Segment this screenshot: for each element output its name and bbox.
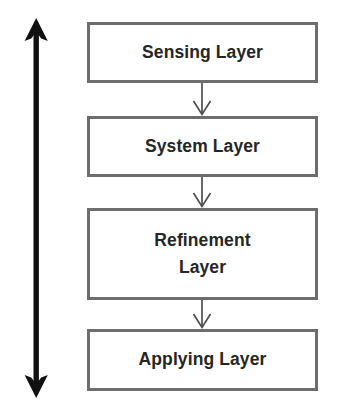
vertical-double-headed-arrow-icon: [14, 12, 59, 402]
layer-box-applying[interactable]: Applying Layer: [87, 329, 318, 391]
layer-box-refinement[interactable]: Refinement Layer: [87, 208, 318, 300]
layer-label-sensing: Sensing Layer: [142, 39, 263, 66]
connector-refinement-to-applying: [194, 300, 211, 328]
connector-sensing-to-system: [194, 83, 211, 115]
layer-label-system: System Layer: [145, 133, 260, 160]
layer-box-system[interactable]: System Layer: [87, 116, 318, 177]
layer-label-applying: Applying Layer: [139, 346, 267, 373]
connector-system-to-refinement: [194, 177, 211, 207]
layer-box-sensing[interactable]: Sensing Layer: [87, 22, 318, 83]
layer-label-refinement: Refinement Layer: [154, 227, 250, 281]
diagram-canvas: Sensing Layer System Layer Refinement La…: [0, 0, 341, 413]
